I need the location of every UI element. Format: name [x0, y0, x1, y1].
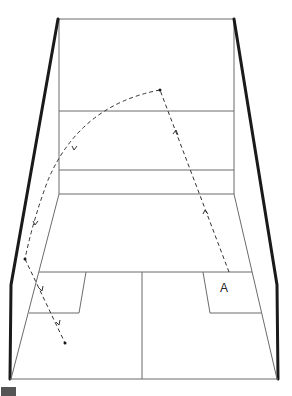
- arrow-up-icon: [203, 210, 208, 214]
- side-wall-impact-point: [24, 258, 27, 261]
- squash-court-diagram: A: [0, 0, 292, 396]
- trajectory-arc-to-side-wall: [25, 90, 160, 259]
- player-label: A: [220, 281, 228, 295]
- right-service-box: [203, 272, 261, 313]
- arrow-down-icon: [72, 146, 77, 150]
- arrow-down-icon: [39, 286, 43, 291]
- floor-right-edge: [234, 194, 277, 379]
- front-wall: [59, 19, 234, 194]
- right-side-wall-edge: [234, 19, 278, 379]
- ball-trajectory: [24, 89, 230, 345]
- side-walls: [10, 19, 278, 379]
- floor-left-edge: [11, 194, 59, 379]
- legend-marker: [1, 387, 16, 396]
- left-side-wall-edge: [10, 19, 58, 379]
- trajectory-to-front-wall: [160, 90, 229, 272]
- front-wall-impact-point: [159, 89, 162, 92]
- court-floor: [10, 194, 278, 379]
- arrow-up-icon: [173, 130, 178, 135]
- floor-end-point: [64, 342, 67, 345]
